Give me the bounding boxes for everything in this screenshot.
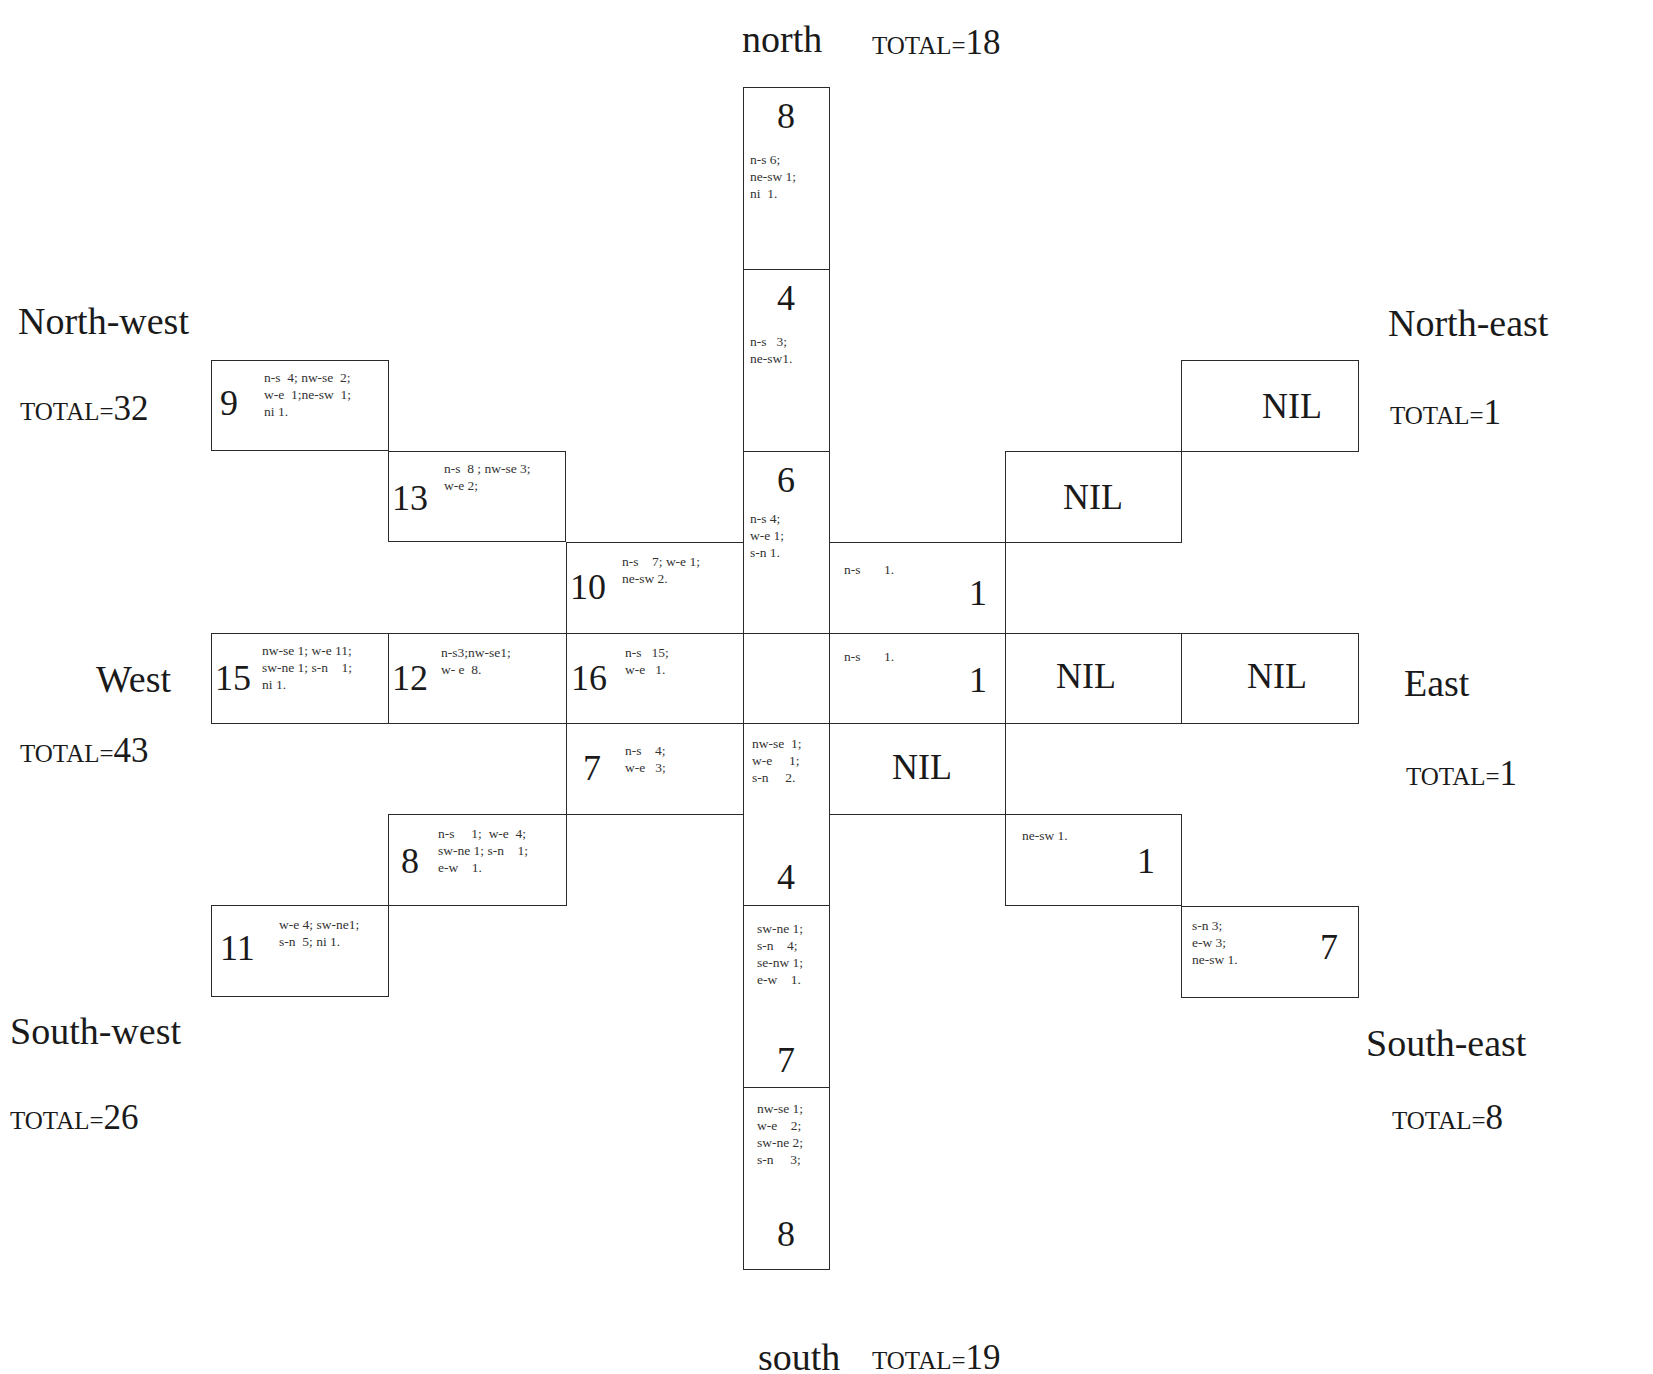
cell-west-1: 15 nw-se 1; w-e 11; sw-ne 1; s-n 1; ni 1…	[211, 633, 389, 724]
cell-center	[743, 633, 830, 724]
north-west-total-value: 32	[114, 389, 149, 428]
cell-count: 1	[969, 575, 987, 611]
cell-count: NIL	[1006, 479, 1180, 515]
north-total-prefix: TOTAL=	[872, 32, 966, 59]
cell-note: n-s 1.	[844, 648, 894, 665]
cell-note: w-e 4; sw-ne1; s-n 5; ni 1.	[279, 916, 359, 950]
cell-count: NIL	[1006, 658, 1166, 694]
north-label: north	[742, 20, 822, 58]
south-west-total-value: 26	[104, 1098, 139, 1137]
cell-note: s-n 3; e-w 3; ne-sw 1.	[1192, 917, 1238, 968]
west-total: TOTAL=43	[20, 733, 149, 768]
north-west-label: North-west	[18, 302, 189, 340]
north-east-label: North-east	[1388, 304, 1548, 342]
cell-east-1: n-s 1. 1	[829, 633, 1006, 724]
cell-count: 8	[401, 843, 419, 879]
east-total-prefix: TOTAL=	[1406, 763, 1500, 790]
cell-note: n-s 4; nw-se 2; w-e 1;ne-sw 1; ni 1.	[264, 369, 351, 420]
north-west-total-prefix: TOTAL=	[20, 398, 114, 425]
cell-east-3: NIL	[1181, 633, 1359, 724]
cell-note: n-s 4; w-e 1; s-n 1.	[750, 510, 784, 561]
east-total: TOTAL=1	[1406, 756, 1517, 791]
cell-east-2: NIL	[1005, 633, 1182, 724]
cell-note: n-s 8 ; nw-se 3; w-e 2;	[444, 460, 531, 494]
cell-north-2: 4 n-s 3; ne-sw1.	[743, 269, 830, 452]
west-label: West	[96, 660, 171, 698]
west-total-value: 43	[114, 731, 149, 770]
cell-count: NIL	[1232, 388, 1352, 424]
cell-count: NIL	[830, 749, 1014, 785]
cell-north-west-1: 9 n-s 4; nw-se 2; w-e 1;ne-sw 1; ni 1.	[211, 360, 389, 451]
cell-south-east-2: ne-sw 1. 1	[1005, 814, 1182, 906]
cell-note: n-s 1; w-e 4; sw-ne 1; s-n 1; e-w 1.	[438, 825, 528, 876]
cell-north-1: 8 n-s 6; ne-sw 1; ni 1.	[743, 87, 830, 270]
north-east-total: TOTAL=1	[1390, 395, 1501, 430]
cell-count: 15	[215, 660, 251, 696]
cell-note: n-s 15; w-e 1.	[625, 644, 669, 678]
cell-north-west-2: 13 n-s 8 ; nw-se 3; w-e 2;	[388, 451, 566, 542]
south-east-label: South-east	[1366, 1024, 1526, 1062]
cell-north-east-2: NIL	[1005, 451, 1182, 543]
cell-note: nw-se 1; w-e 1; s-n 2.	[752, 735, 802, 786]
cell-note: n-s 4; w-e 3;	[625, 742, 666, 776]
cell-count: 13	[392, 480, 428, 516]
cell-count: 7	[583, 750, 601, 786]
cell-note: ne-sw 1.	[1022, 827, 1068, 844]
cell-count: 11	[220, 930, 255, 966]
south-west-label: South-west	[10, 1012, 181, 1050]
cell-count: 9	[220, 385, 238, 421]
cell-south-3: nw-se 1; w-e 2; sw-ne 2; s-n 3; 8	[743, 1087, 830, 1270]
south-label: south	[758, 1338, 840, 1374]
north-west-total: TOTAL=32	[20, 391, 149, 426]
cell-note: n-s 7; w-e 1; ne-sw 2.	[622, 553, 700, 587]
south-total: TOTAL=19	[872, 1340, 1001, 1374]
cell-north-3: 6 n-s 4; w-e 1; s-n 1.	[743, 451, 830, 634]
cell-count: 1	[969, 662, 987, 698]
cell-south-east-3: s-n 3; e-w 3; ne-sw 1. 7	[1181, 906, 1359, 998]
cell-count: 8	[744, 1216, 828, 1252]
cell-south-west-2: 8 n-s 1; w-e 4; sw-ne 1; s-n 1; e-w 1.	[388, 814, 567, 906]
cell-count: NIL	[1212, 658, 1342, 694]
cell-note: sw-ne 1; s-n 4; se-nw 1; e-w 1.	[757, 920, 803, 988]
north-total: TOTAL=18	[872, 25, 1001, 60]
south-east-total: TOTAL=8	[1392, 1100, 1503, 1135]
cell-north-east-1: n-s 1. 1	[829, 542, 1006, 634]
cell-count: 4	[744, 280, 828, 316]
cell-count: 8	[744, 98, 828, 134]
cell-south-west-3: 11 w-e 4; sw-ne1; s-n 5; ni 1.	[211, 905, 389, 997]
cell-note: n-s3;nw-se1; w- e 8.	[441, 644, 511, 678]
north-total-value: 18	[966, 23, 1001, 62]
south-west-total: TOTAL=26	[10, 1100, 139, 1135]
east-total-value: 1	[1500, 754, 1518, 793]
south-total-prefix: TOTAL=	[872, 1347, 966, 1374]
cell-count: 12	[392, 660, 428, 696]
cell-west-2: 12 n-s3;nw-se1; w- e 8.	[388, 633, 567, 724]
cell-note: n-s 6; ne-sw 1; ni 1.	[750, 151, 796, 202]
cell-north-east-3: NIL	[1181, 360, 1359, 452]
east-label: East	[1404, 664, 1469, 702]
south-east-total-value: 8	[1486, 1098, 1504, 1137]
north-east-total-value: 1	[1484, 393, 1502, 432]
south-west-total-prefix: TOTAL=	[10, 1107, 104, 1134]
cell-west-3: 16 n-s 15; w-e 1.	[566, 633, 744, 724]
south-east-total-prefix: TOTAL=	[1392, 1107, 1486, 1134]
cell-count: 6	[744, 462, 828, 498]
cell-count: 7	[1320, 929, 1338, 965]
cell-note: n-s 3; ne-sw1.	[750, 333, 792, 367]
cell-count: 1	[1137, 843, 1155, 879]
cell-south-2: sw-ne 1; s-n 4; se-nw 1; e-w 1. 7	[743, 905, 830, 1088]
south-total-value: 19	[966, 1338, 1001, 1374]
cell-south-1: nw-se 1; w-e 1; s-n 2. 4	[743, 723, 830, 906]
cell-north-west-3: 10 n-s 7; w-e 1; ne-sw 2.	[566, 542, 744, 634]
cell-count: 4	[744, 859, 828, 895]
north-east-total-prefix: TOTAL=	[1390, 402, 1484, 429]
cell-count: 7	[744, 1042, 828, 1078]
cell-note: nw-se 1; w-e 2; sw-ne 2; s-n 3;	[757, 1100, 803, 1168]
west-total-prefix: TOTAL=	[20, 740, 114, 767]
cell-count: 10	[570, 569, 606, 605]
cell-note: nw-se 1; w-e 11; sw-ne 1; s-n 1; ni 1.	[262, 642, 352, 693]
cell-south-west-1: 7 n-s 4; w-e 3;	[566, 723, 744, 815]
cell-south-east-1: NIL	[829, 723, 1006, 815]
cell-count: 16	[571, 660, 607, 696]
cell-note: n-s 1.	[844, 561, 894, 578]
